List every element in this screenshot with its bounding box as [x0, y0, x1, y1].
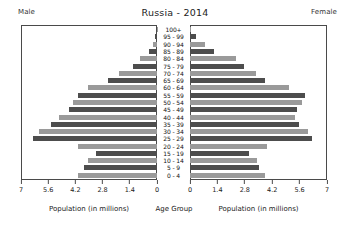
male-bar: [84, 165, 157, 170]
right-axis-caption: Population (in millions): [190, 205, 327, 213]
male-bar: [88, 85, 157, 90]
axis-tick-mark: [326, 180, 327, 184]
female-bar: [190, 165, 259, 170]
male-bar: [88, 158, 157, 163]
age-group-label: 40 - 44: [157, 113, 190, 120]
age-group-label: 65 - 69: [157, 77, 190, 84]
male-bar-row: [21, 113, 157, 120]
female-bar-row: [190, 99, 327, 106]
age-group-label: 5 - 9: [157, 164, 190, 171]
female-bar: [190, 173, 265, 178]
male-bar: [78, 144, 157, 149]
male-bar-row: [21, 143, 157, 150]
female-bar: [190, 93, 305, 98]
axis-tick: 0: [188, 180, 192, 194]
axis-tick-mark: [48, 180, 49, 184]
age-group-label: 95 - 99: [157, 33, 190, 40]
axis-tick-label: 4.2: [70, 186, 80, 194]
age-group-label: 55 - 59: [157, 92, 190, 99]
female-bar: [190, 78, 265, 83]
age-group-label: 75 - 79: [157, 62, 190, 69]
female-bars-group: [190, 25, 327, 180]
female-bar-row: [190, 26, 327, 33]
axis-tick: 2.8: [240, 180, 250, 194]
female-bar-row: [190, 157, 327, 164]
male-bar-row: [21, 121, 157, 128]
male-bar-row: [21, 70, 157, 77]
male-bar: [39, 129, 157, 134]
male-bar: [69, 107, 157, 112]
axis-tick-mark: [102, 180, 103, 184]
female-bar-row: [190, 164, 327, 171]
male-bar: [133, 64, 157, 69]
axis-tick-label: 0: [155, 186, 159, 194]
male-bar-row: [21, 55, 157, 62]
male-bar-row: [21, 135, 157, 142]
female-bar-row: [190, 77, 327, 84]
male-bar-row: [21, 99, 157, 106]
male-bar-row: [21, 48, 157, 55]
age-group-label: 35 - 39: [157, 121, 190, 128]
chart-title: Russia - 2014: [0, 7, 350, 18]
right-axis: 01.42.84.25.67: [190, 180, 327, 202]
axis-tick-label: 7: [325, 186, 329, 194]
female-bar-row: [190, 62, 327, 69]
male-bar-row: [21, 172, 157, 179]
male-bar-row: [21, 26, 157, 33]
axis-tick: 2.8: [97, 180, 107, 194]
male-bar-row: [21, 84, 157, 91]
male-bar-row: [21, 77, 157, 84]
axis-tick-mark: [272, 180, 273, 184]
axis-tick: 7: [325, 180, 329, 194]
female-bar: [190, 71, 256, 76]
age-group-label: 10 - 14: [157, 157, 190, 164]
axis-tick: 0: [155, 180, 159, 194]
female-bar: [190, 129, 308, 134]
age-group-label: 25 - 29: [157, 135, 190, 142]
age-group-label: 15 - 19: [157, 150, 190, 157]
left-axis: 75.64.22.81.40: [21, 180, 157, 202]
axis-tick-label: 5.6: [294, 186, 304, 194]
male-bar: [108, 78, 157, 83]
female-bar: [190, 42, 205, 47]
female-bar-row: [190, 84, 327, 91]
axis-tick: 7: [19, 180, 23, 194]
female-bar: [190, 115, 295, 120]
male-bar-row: [21, 62, 157, 69]
axis-tick-label: 5.6: [43, 186, 53, 194]
male-bar: [149, 49, 157, 54]
male-bar-row: [21, 164, 157, 171]
male-bar-row: [21, 150, 157, 157]
female-bar: [190, 136, 312, 141]
female-bar-row: [190, 48, 327, 55]
axis-tick-mark: [129, 180, 130, 184]
axis-tick: 4.2: [70, 180, 80, 194]
axis-tick-label: 2.8: [97, 186, 107, 194]
female-bar: [190, 107, 297, 112]
female-bar-row: [190, 41, 327, 48]
axis-tick-mark: [75, 180, 76, 184]
axis-tick-mark: [299, 180, 300, 184]
female-bar-row: [190, 150, 327, 157]
age-group-label: 0 - 4: [157, 172, 190, 179]
female-bar-row: [190, 143, 327, 150]
population-pyramid-chart: Male Female Russia - 2014 100+95 - 9990 …: [0, 0, 350, 242]
male-bar-row: [21, 128, 157, 135]
male-bar: [78, 93, 157, 98]
female-bar: [190, 144, 267, 149]
female-bar: [190, 85, 289, 90]
female-bar-row: [190, 113, 327, 120]
age-group-label: 70 - 74: [157, 70, 190, 77]
female-bar-row: [190, 106, 327, 113]
age-group-label: 20 - 24: [157, 143, 190, 150]
male-bar: [119, 71, 157, 76]
female-bar-row: [190, 121, 327, 128]
axis-tick-label: 2.8: [240, 186, 250, 194]
male-bar-row: [21, 157, 157, 164]
axis-tick-label: 0: [188, 186, 192, 194]
female-bar-row: [190, 172, 327, 179]
axis-tick-mark: [189, 180, 190, 184]
female-bar-row: [190, 128, 327, 135]
axis-tick: 5.6: [294, 180, 304, 194]
axis-tick: 1.4: [125, 180, 135, 194]
